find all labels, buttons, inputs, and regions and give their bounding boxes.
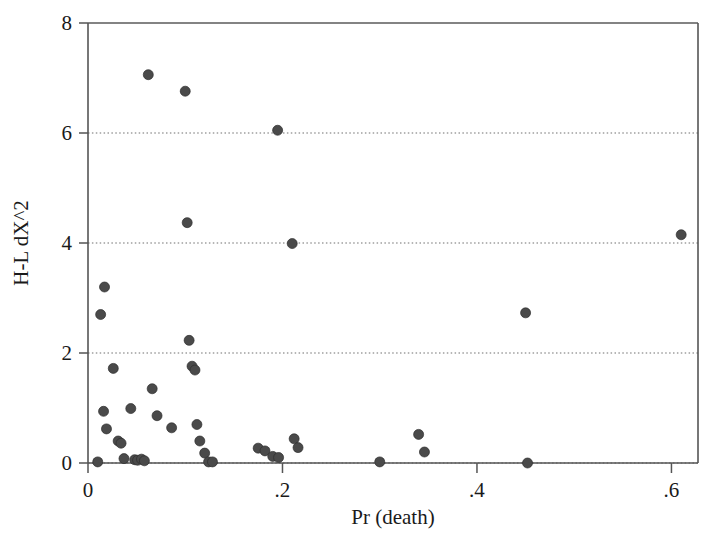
data-point	[93, 457, 103, 467]
data-point	[676, 230, 686, 240]
y-tick-label-8: 8	[62, 11, 73, 35]
data-point	[375, 457, 385, 467]
plot-canvas: 02468 0.2.4.6 Pr (death) H-L dX^2	[0, 0, 719, 539]
data-point	[195, 436, 205, 446]
x-tick-label-1: .2	[275, 478, 291, 502]
data-point	[180, 86, 190, 96]
data-point	[152, 411, 162, 421]
scatter-plot-figure: 02468 0.2.4.6 Pr (death) H-L dX^2	[0, 0, 719, 539]
y-tick-label-6: 6	[62, 121, 73, 145]
data-point	[139, 456, 149, 466]
data-point	[119, 454, 129, 464]
x-tick-label-3: .6	[664, 478, 680, 502]
data-point	[293, 443, 303, 453]
data-point	[116, 438, 126, 448]
data-point	[143, 70, 153, 80]
data-point	[521, 308, 531, 318]
data-point	[182, 218, 192, 228]
data-point	[100, 282, 110, 292]
x-tick-label-2: .4	[469, 478, 485, 502]
data-point	[99, 406, 109, 416]
y-tick-label-4: 4	[62, 231, 73, 255]
data-point	[96, 310, 106, 320]
data-point	[207, 457, 217, 467]
data-point	[419, 447, 429, 457]
data-point	[414, 429, 424, 439]
data-point	[287, 239, 297, 249]
data-point	[126, 404, 136, 414]
data-point	[190, 365, 200, 375]
figure-background	[0, 0, 719, 539]
data-point	[192, 420, 202, 430]
y-tick-label-0: 0	[62, 451, 73, 475]
data-point	[273, 125, 283, 135]
data-point	[108, 363, 118, 373]
x-tick-label-0: 0	[83, 478, 94, 502]
x-axis-title: Pr (death)	[351, 505, 434, 529]
data-point	[101, 424, 111, 434]
y-axis-title: H-L dX^2	[9, 200, 33, 285]
data-point	[147, 384, 157, 394]
data-point	[274, 453, 284, 463]
data-point	[167, 423, 177, 433]
data-point	[184, 335, 194, 345]
data-point	[523, 458, 533, 468]
y-tick-label-2: 2	[62, 341, 73, 365]
